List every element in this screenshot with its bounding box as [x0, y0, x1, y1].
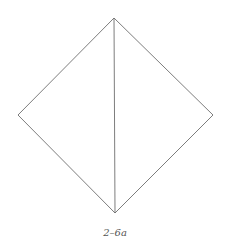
- edge-diagonal: [114, 18, 115, 213]
- edge-left-bottom: [18, 115, 115, 213]
- edge-bottom-right: [115, 115, 213, 213]
- edge-top-left: [18, 18, 114, 115]
- diamond-edges: [18, 18, 213, 213]
- edge-right-top: [114, 18, 213, 115]
- figure-caption: 2–6a: [0, 226, 226, 240]
- diamond-diagram: [0, 0, 226, 240]
